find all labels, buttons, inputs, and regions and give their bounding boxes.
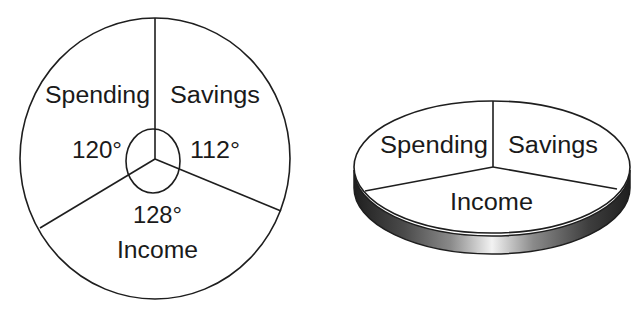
3d-pie-chart: Spending Savings Income xyxy=(354,101,630,254)
pie-diagrams: Spending Savings 120° 112° 128° Income S… xyxy=(0,0,644,317)
3d-sector-label-spending: Spending xyxy=(380,132,488,158)
flat-pie-chart: Spending Savings 120° 112° 128° Income xyxy=(20,18,290,299)
3d-sector-label-income: Income xyxy=(450,189,533,215)
sector-label-savings: Savings xyxy=(170,82,260,108)
angle-label-savings: 112° xyxy=(190,137,240,163)
sector-label-spending: Spending xyxy=(45,82,150,108)
3d-sector-label-savings: Savings xyxy=(508,132,598,158)
sector-label-income: Income xyxy=(117,237,198,263)
angle-label-spending: 120° xyxy=(72,137,122,163)
angle-label-income: 128° xyxy=(133,202,182,228)
